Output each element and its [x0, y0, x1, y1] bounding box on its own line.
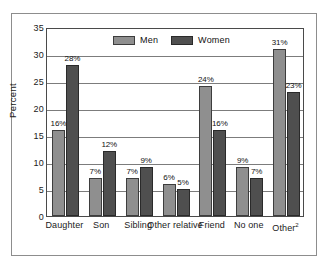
chart-figure: Percent 05101520253035 16%7%7%6%24%9%31%…	[0, 0, 331, 272]
bar-women-4	[213, 130, 226, 216]
bar-women-6	[287, 92, 300, 216]
y-axis-tick-10: 10	[34, 159, 44, 168]
bar-women-1	[103, 151, 116, 216]
bar-value-label-men-6: 31%	[269, 39, 291, 47]
y-axis-tick-labels: 05101520253035	[18, 28, 44, 217]
bar-value-label-women-6: 23%	[283, 82, 305, 90]
bar-value-label-women-0: 28%	[61, 55, 83, 63]
gridline-10	[47, 164, 303, 165]
y-axis-tick-25: 25	[34, 78, 44, 87]
bar-women-5	[250, 178, 263, 216]
y-axis-tick-30: 30	[34, 51, 44, 60]
bar-men-4	[199, 86, 212, 216]
bar-men-2	[126, 178, 139, 216]
bar-women-2	[140, 167, 153, 216]
y-axis-title: Percent	[7, 61, 18, 141]
bar-value-label-women-3: 5%	[172, 179, 194, 187]
bar-men-0	[52, 130, 65, 216]
y-axis-tick-20: 20	[34, 105, 44, 114]
bar-men-6	[273, 49, 286, 216]
x-axis-category-labels: DaughterSonSiblingOther relativeFriendNo…	[46, 220, 304, 260]
y-axis-tick-15: 15	[34, 132, 44, 141]
bar-value-label-men-4: 24%	[195, 76, 217, 84]
bar-women-0	[66, 65, 79, 216]
bar-men-3	[163, 184, 176, 216]
gridline-20	[47, 110, 303, 111]
legend-label-men: Men	[140, 35, 158, 45]
y-axis-tick-35: 35	[34, 24, 44, 33]
gridline-25	[47, 83, 303, 84]
bar-women-3	[177, 189, 190, 216]
plot-area: 16%7%7%6%24%9%31%28%12%9%5%16%7%23%	[46, 28, 304, 217]
bar-value-label-women-4: 16%	[209, 120, 231, 128]
gridline-30	[47, 56, 303, 57]
bar-value-label-women-2: 9%	[135, 157, 157, 165]
gridline-15	[47, 137, 303, 138]
x-axis-label-other: Other2	[258, 220, 314, 234]
bar-value-label-men-5: 9%	[232, 157, 254, 165]
legend-swatch-women	[171, 36, 193, 45]
legend-label-women: Women	[198, 35, 230, 45]
bar-value-label-women-1: 12%	[98, 141, 120, 149]
bar-value-label-women-5: 7%	[246, 168, 268, 176]
y-axis-tick-5: 5	[39, 186, 44, 195]
bar-men-1	[89, 178, 102, 216]
chart-legend: Men Women	[113, 35, 238, 45]
legend-swatch-men	[113, 36, 135, 45]
